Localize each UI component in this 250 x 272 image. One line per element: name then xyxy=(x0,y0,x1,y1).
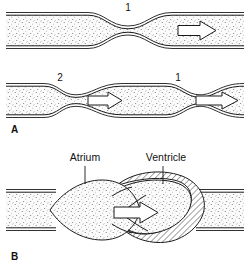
panel-letter-a: A xyxy=(11,124,18,135)
outflow-vessel-lumen xyxy=(200,192,244,228)
panel-letter-b: B xyxy=(11,251,18,262)
peristalsis-figure: 1 2 1 A xyxy=(0,0,250,272)
label-constriction-a1-1: 1 xyxy=(125,2,131,13)
inflow-vessel-lumen xyxy=(6,192,52,228)
label-atrium: Atrium xyxy=(70,151,101,163)
figure-root: 1 2 1 A xyxy=(0,0,250,272)
label-ventricle: Ventricle xyxy=(146,151,186,163)
label-constriction-a2-1: 1 xyxy=(175,72,181,83)
label-constriction-a2-2: 2 xyxy=(57,72,63,83)
